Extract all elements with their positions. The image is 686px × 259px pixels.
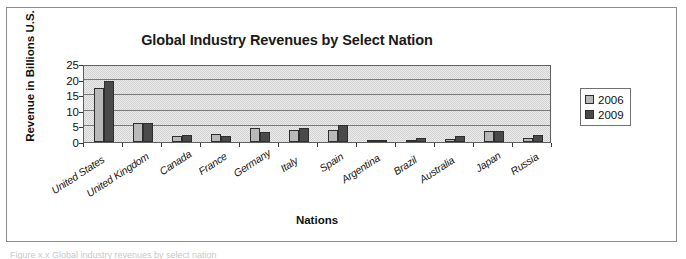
x-tick-label: Japan bbox=[473, 149, 503, 174]
bar-group bbox=[279, 66, 318, 142]
y-tick-label: 10 bbox=[55, 107, 79, 118]
x-tick-mark bbox=[551, 143, 552, 147]
plot-area bbox=[83, 65, 551, 143]
y-tick-mark bbox=[79, 127, 83, 128]
bar-group bbox=[84, 66, 123, 142]
bar-series-container bbox=[84, 66, 550, 142]
bar-2009[interactable] bbox=[416, 138, 426, 142]
bar-2006[interactable] bbox=[172, 136, 182, 142]
bar-2009[interactable] bbox=[455, 136, 465, 142]
legend-item[interactable]: 2009 bbox=[585, 107, 624, 122]
chart-legend: 20062009 bbox=[580, 88, 631, 126]
bar-group bbox=[396, 66, 435, 142]
y-tick-label: 0 bbox=[55, 138, 79, 149]
bar-group bbox=[240, 66, 279, 142]
legend-item[interactable]: 2006 bbox=[585, 92, 624, 107]
bar-2006[interactable] bbox=[328, 130, 338, 142]
bar-2009[interactable] bbox=[182, 135, 192, 142]
bar-group bbox=[474, 66, 513, 142]
bar-2009[interactable] bbox=[299, 128, 309, 142]
x-tick-label: Russia bbox=[508, 150, 540, 177]
bar-group bbox=[123, 66, 162, 142]
bar-2006[interactable] bbox=[289, 130, 299, 142]
x-tick-mark bbox=[200, 143, 201, 147]
legend-label: 2009 bbox=[598, 109, 624, 121]
legend-swatch-icon bbox=[585, 95, 594, 104]
bar-2009[interactable] bbox=[338, 125, 348, 142]
bar-group bbox=[357, 66, 396, 142]
chart-title: Global Industry Revenues by Select Natio… bbox=[7, 32, 567, 48]
x-tick-mark bbox=[395, 143, 396, 147]
x-tick-label: Argentina bbox=[339, 151, 382, 185]
bar-2006[interactable] bbox=[250, 128, 260, 142]
figure-frame: Global Industry Revenues by Select Natio… bbox=[6, 7, 677, 242]
y-axis-tick-labels: 0510152025 bbox=[53, 65, 79, 143]
bar-group bbox=[201, 66, 240, 142]
bar-group bbox=[318, 66, 357, 142]
bar-2006[interactable] bbox=[406, 140, 416, 142]
x-tick-label: Canada bbox=[157, 147, 193, 176]
y-tick-mark bbox=[79, 81, 83, 82]
figure-caption: Figure x.x Global industry revenues by s… bbox=[10, 250, 410, 259]
y-tick-mark bbox=[79, 96, 83, 97]
legend-label: 2006 bbox=[598, 94, 624, 106]
bar-group bbox=[162, 66, 201, 142]
bar-2009[interactable] bbox=[143, 123, 153, 142]
y-tick-label: 25 bbox=[55, 60, 79, 71]
y-tick-label: 15 bbox=[55, 91, 79, 102]
y-tick-mark bbox=[79, 143, 83, 144]
bar-2006[interactable] bbox=[445, 139, 455, 142]
x-tick-mark bbox=[356, 143, 357, 147]
x-tick-mark bbox=[161, 143, 162, 147]
x-tick-label: France bbox=[196, 150, 229, 177]
y-tick-mark bbox=[79, 65, 83, 66]
x-tick-mark bbox=[512, 143, 513, 147]
x-tick-mark bbox=[122, 143, 123, 147]
x-tick-label: Australia bbox=[417, 154, 456, 185]
y-tick-label: 5 bbox=[55, 122, 79, 133]
x-tick-label: Germany bbox=[231, 147, 273, 180]
bar-2006[interactable] bbox=[523, 138, 533, 142]
x-tick-mark bbox=[83, 143, 84, 147]
x-tick-label: Spain bbox=[317, 150, 345, 174]
x-tick-mark bbox=[278, 143, 279, 147]
bar-2009[interactable] bbox=[104, 81, 114, 142]
x-tick-label: Italy bbox=[278, 154, 300, 174]
bar-2006[interactable] bbox=[94, 88, 104, 142]
y-tick-label: 20 bbox=[55, 76, 79, 87]
x-axis-title: Nations bbox=[83, 214, 551, 226]
bar-2006[interactable] bbox=[133, 123, 143, 142]
x-tick-mark bbox=[317, 143, 318, 147]
bar-2009[interactable] bbox=[260, 132, 270, 142]
y-axis-title: Revenue in Billions U.S. bbox=[24, 1, 36, 151]
x-tick-mark bbox=[434, 143, 435, 147]
bar-2006[interactable] bbox=[211, 134, 221, 142]
bar-2006[interactable] bbox=[484, 131, 494, 142]
x-tick-mark bbox=[239, 143, 240, 147]
bar-2009[interactable] bbox=[377, 140, 387, 142]
bar-group bbox=[435, 66, 474, 142]
bar-2009[interactable] bbox=[533, 135, 543, 142]
bar-2009[interactable] bbox=[494, 131, 504, 142]
x-tick-mark bbox=[473, 143, 474, 147]
bar-2009[interactable] bbox=[221, 136, 231, 142]
legend-swatch-icon bbox=[585, 110, 594, 119]
bar-group bbox=[513, 66, 551, 142]
x-tick-label: Brazil bbox=[391, 153, 419, 177]
bar-2006[interactable] bbox=[367, 140, 377, 142]
y-tick-mark bbox=[79, 112, 83, 113]
